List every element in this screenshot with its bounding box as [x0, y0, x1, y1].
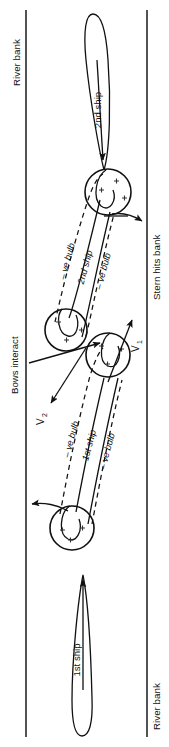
- diagram-canvas: River bank Stern hits bank River bank Bo…: [0, 0, 169, 747]
- hull-second-ship-middle: [45, 309, 87, 351]
- velocity-1-subscript: 1: [136, 340, 143, 344]
- label-velocity-1: V 1: [130, 340, 143, 352]
- label-first-ship-centreline: 1st ship: [80, 429, 98, 462]
- hull-first-ship-middle: [86, 333, 130, 377]
- velocity-2-subscript: 2: [41, 413, 48, 417]
- label-second-ship-track: 2nd ship: [92, 92, 103, 128]
- label-velocity-2: V 2: [35, 413, 48, 425]
- label-negative-bulb-first-right: – ve bulb: [97, 432, 117, 472]
- label-negative-bulb-first-left: – ve bulb: [61, 420, 81, 460]
- label-first-ship-track: 1st ship: [71, 643, 82, 676]
- label-river-bank-right: River bank: [151, 683, 162, 730]
- label-negative-bulb-second-left: – ve bulb: [57, 242, 77, 282]
- hull-first-ship-lower: [32, 503, 94, 550]
- velocity-2-symbol: V: [35, 418, 46, 425]
- ship-interaction-diagram: River bank Stern hits bank River bank Bo…: [0, 0, 169, 747]
- label-bows-interact: Bows interact: [9, 336, 20, 394]
- label-river-bank-left: River bank: [11, 39, 22, 86]
- velocity-vector-v2: [51, 348, 86, 403]
- label-second-ship-centreline: 2nd ship: [76, 249, 95, 286]
- label-stern-hits-bank: Stern hits bank: [151, 235, 162, 300]
- hull-second-ship-upper: [85, 169, 142, 221]
- velocity-1-symbol: V: [130, 345, 141, 352]
